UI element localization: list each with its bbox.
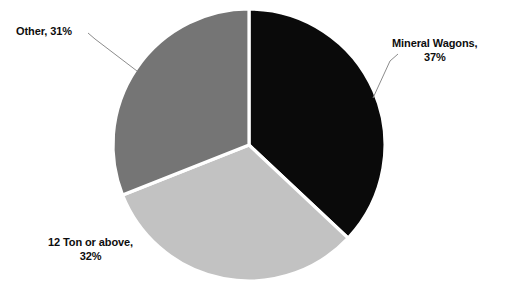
pie-label-mineral-wagons: Mineral Wagons, 37% bbox=[392, 37, 478, 64]
pie-label-other-name: Other, 31% bbox=[16, 25, 72, 39]
leader-line-other bbox=[88, 33, 137, 71]
pie-label-12-ton-or-above-name: 12 Ton or above, bbox=[48, 236, 133, 250]
pie-label-12-ton-or-above-value: 32% bbox=[48, 250, 133, 264]
pie-label-other: Other, 31% bbox=[16, 25, 72, 39]
pie-label-12-ton-or-above: 12 Ton or above, 32% bbox=[48, 236, 133, 263]
pie-label-mineral-wagons-value: 37% bbox=[392, 51, 478, 65]
pie-slices bbox=[113, 9, 385, 281]
pie-label-mineral-wagons-name: Mineral Wagons, bbox=[392, 37, 478, 51]
pie-chart-figure: Mineral Wagons, 37% Other, 31% 12 Ton or… bbox=[0, 0, 524, 294]
